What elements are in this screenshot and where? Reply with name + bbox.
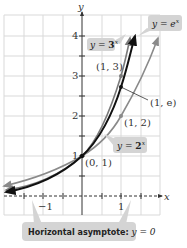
point-label-1-e: (1, e) [150, 97, 177, 108]
point-0-1 [80, 154, 84, 158]
svg-text:y = 2x: y = 2x [116, 139, 146, 151]
point-label-1-2: (1, 2) [124, 117, 151, 128]
svg-text:y = 3x: y = 3x [89, 38, 119, 50]
curve-e-to-x [6, 36, 135, 192]
y-tick-label-4: 4 [72, 30, 78, 41]
y-axis-label: y [77, 1, 84, 12]
point-label-1-3: (1, 3) [96, 61, 123, 72]
y-tick-label-2: 2 [72, 110, 78, 121]
point-1-2 [119, 114, 123, 118]
svg-text:y = ex: y = ex [151, 17, 180, 29]
x-tick-label-1: 1 [118, 201, 124, 212]
callout-3-to-x: y = 3x [87, 34, 126, 51]
curve-2-to-x [4, 38, 158, 186]
svg-text:Horizontal asymptote: y = 0: Horizontal asymptote: y = 0 [28, 227, 156, 237]
point-1-e [119, 85, 123, 89]
point-label-0-1: (0, 1) [85, 157, 112, 168]
x-axis-label: x [164, 191, 170, 202]
y-tick-label-3: 3 [72, 70, 78, 81]
point-1-3 [119, 74, 123, 78]
exponential-functions-chart: y x −1 1 1 2 3 4 (0, 1) (1, 3) (1, e) (1… [0, 0, 187, 248]
x-tick-label-neg1: −1 [38, 201, 53, 212]
